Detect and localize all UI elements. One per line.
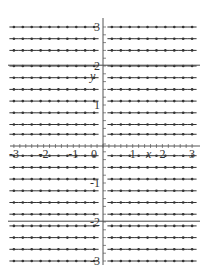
y-tick-label: -3 [90,254,100,268]
x-tick-label: 1 [130,147,136,161]
x-tick-label: -2 [39,147,49,161]
x-tick-label: 3 [189,147,195,161]
slope-field-plot: -3-2-10123321-1-2-3 x y [0,0,205,276]
x-axis-label: x [145,147,152,161]
y-tick-label: 1 [94,98,100,112]
y-tick-label: 3 [94,20,100,34]
y-tick-label: -2 [90,215,100,229]
tick-labels: -3-2-10123321-1-2-3 [9,20,195,268]
x-tick-label: -3 [9,147,19,161]
x-tick-label: 2 [159,147,165,161]
axes [10,18,200,265]
x-tick-label: 0 [91,147,97,161]
y-tick-label: -1 [90,176,100,190]
x-tick-label: -1 [68,147,78,161]
solution-curves [8,65,200,221]
y-axis-label: y [89,69,96,83]
